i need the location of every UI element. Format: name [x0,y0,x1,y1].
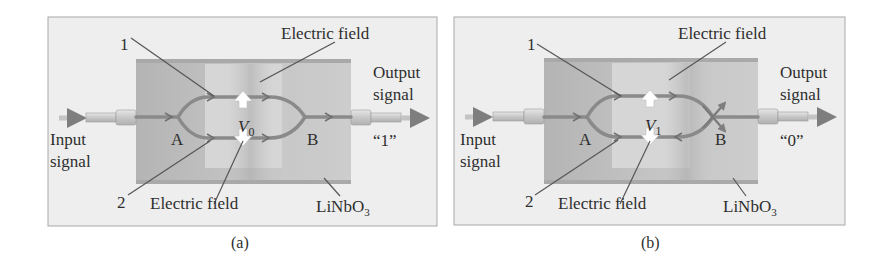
output-label-line2: signal [780,85,821,104]
chip-bottom-edge [544,180,758,184]
chip-bottom-edge [136,180,351,184]
output-value: “1” [373,131,397,150]
mach-zehnder-modulator-figure: 1 Electric field Output signal “1” Input… [0,0,881,269]
electric-field-top-label: Electric field [678,24,767,43]
field-shading [664,63,709,180]
output-label-line1: Output [373,63,421,82]
electrode-edge [282,64,288,180]
junction-b-label: B [715,130,726,149]
electric-field-bottom-label: Electric field [558,194,647,213]
panel-a-caption: (a) [231,234,249,252]
electric-field-bottom-label: Electric field [150,194,239,213]
field-shading [228,64,273,180]
junction-a-label: A [171,130,184,149]
output-label-line2: signal [373,85,414,104]
junction-a-label: A [579,130,592,149]
panel-a: 1 Electric field Output signal “1” Input… [48,17,437,252]
substrate-label: LiNbO3 [316,197,370,218]
substrate-label: LiNbO3 [723,197,777,218]
waveguide-1-label: 1 [120,35,129,54]
output-value: “0” [780,131,804,150]
input-label-line2: signal [460,152,501,171]
input-label-line1: Input [50,130,86,149]
panel-b: 1 Electric field Output signal “0” Input… [454,17,845,252]
chip-top-edge [136,59,351,63]
input-label-line2: signal [50,152,91,171]
junction-b-label: B [307,130,318,149]
waveguide-2-label: 2 [117,193,126,212]
waveguide-2-label: 2 [525,192,534,211]
output-label-line1: Output [780,63,828,82]
panel-b-caption: (b) [641,234,660,252]
waveguide-1-label: 1 [527,35,536,54]
chip-top-edge [544,58,758,62]
electric-field-top-label: Electric field [281,24,370,43]
input-label-line1: Input [460,130,496,149]
